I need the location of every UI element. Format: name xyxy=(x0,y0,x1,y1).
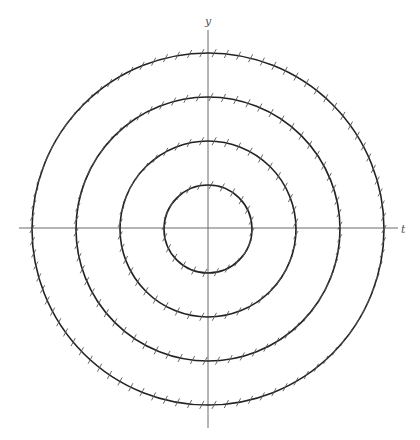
slope-mark xyxy=(348,329,352,337)
slope-mark xyxy=(164,211,168,219)
slope-mark xyxy=(132,334,136,342)
slope-mark xyxy=(324,356,328,364)
slope-mark xyxy=(79,347,83,355)
slope-mark xyxy=(280,116,284,124)
slope-mark xyxy=(312,304,316,312)
slope-mark xyxy=(268,163,272,171)
slope-mark xyxy=(117,127,121,135)
slope-mark xyxy=(361,308,365,316)
slope-mark xyxy=(268,287,272,295)
slope-mark xyxy=(341,338,345,346)
slope-mark xyxy=(64,122,68,130)
slope-mark xyxy=(324,94,328,102)
slope-mark xyxy=(41,165,45,173)
slope-mark xyxy=(314,364,318,372)
slope-mark xyxy=(247,239,251,247)
direction-field-diagram: t y xyxy=(0,0,420,440)
slope-mark xyxy=(290,123,294,131)
slope-mark xyxy=(288,256,292,264)
slope-mark xyxy=(100,146,104,154)
slope-mark xyxy=(82,179,86,187)
slope-mark xyxy=(87,168,91,176)
slope-mark xyxy=(285,331,289,339)
slope-mark xyxy=(319,294,323,302)
slope-mark xyxy=(299,132,303,140)
slope-mark xyxy=(259,295,263,303)
slope-mark xyxy=(332,347,336,355)
slope-mark xyxy=(276,278,280,286)
slope-mark xyxy=(45,153,49,161)
slope-mark xyxy=(283,267,287,275)
slope-mark xyxy=(98,86,102,94)
slope-mark xyxy=(108,79,112,87)
slope-mark xyxy=(88,94,92,102)
slope-mark xyxy=(304,371,308,379)
slope-mark xyxy=(51,142,55,150)
slope-mark xyxy=(79,103,83,111)
slope-mark xyxy=(107,371,111,379)
slope-mark xyxy=(144,163,148,171)
slope-mark xyxy=(153,296,157,304)
slope-mark xyxy=(144,287,148,295)
slope-mark xyxy=(314,86,318,94)
slope-mark xyxy=(259,155,263,163)
slope-mark xyxy=(123,194,127,202)
slope-mark xyxy=(135,172,139,180)
slope-mark xyxy=(295,323,299,331)
slope-mark xyxy=(333,103,337,111)
slope-mark xyxy=(325,283,329,291)
axes: t y xyxy=(19,15,406,428)
slope-mark xyxy=(153,155,157,163)
slope-mark xyxy=(181,262,185,270)
slope-mark xyxy=(98,364,102,372)
t-axis-label: t xyxy=(401,223,406,236)
slope-mark xyxy=(129,183,133,191)
slope-mark xyxy=(93,156,97,164)
slope-mark xyxy=(71,112,75,120)
slope-mark xyxy=(304,79,308,87)
slope-mark xyxy=(122,327,126,335)
slope-mark xyxy=(231,189,235,197)
slope-mark xyxy=(108,136,112,144)
slope-mark xyxy=(235,258,239,266)
slope-mark xyxy=(177,192,181,200)
slope-mark xyxy=(367,297,371,305)
slope-mark xyxy=(88,356,92,364)
slope-mark xyxy=(169,200,173,208)
slope-mark xyxy=(371,285,375,293)
slope-mark xyxy=(304,314,308,322)
slope-mark xyxy=(242,250,246,258)
slope-mark xyxy=(127,119,131,127)
y-axis-label: y xyxy=(204,15,212,28)
slope-mark xyxy=(113,319,117,327)
slope-mark xyxy=(57,132,61,140)
slope-mark xyxy=(330,271,334,279)
slope-mark xyxy=(355,318,359,326)
